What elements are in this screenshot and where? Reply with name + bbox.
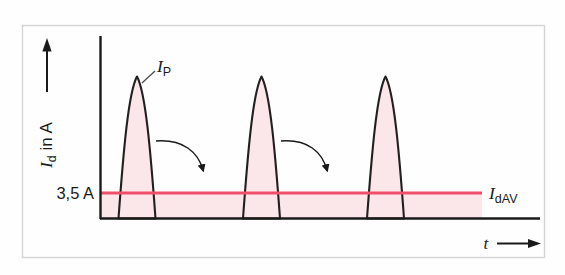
- current-pulse-diagram: Id in A t IP 3,5 A IdAV: [0, 0, 565, 275]
- average-area-shading: [100, 193, 482, 219]
- figure-root: Id in A t IP 3,5 A IdAV: [0, 0, 565, 275]
- average-value-label: 3,5 A: [56, 184, 94, 202]
